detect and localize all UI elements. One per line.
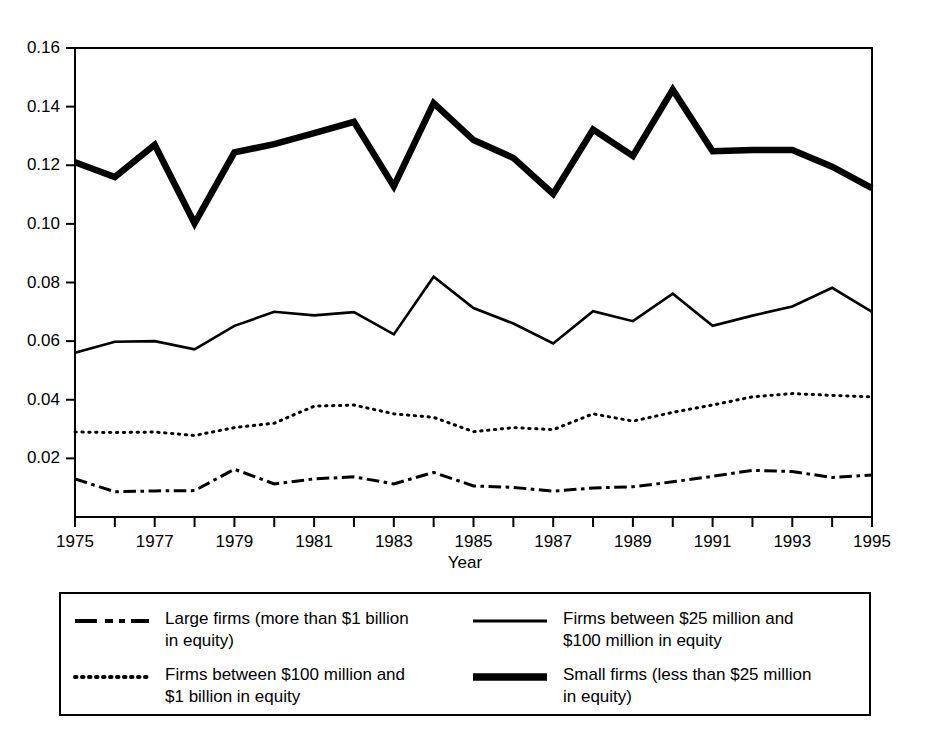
legend-column-right: Firms between $25 million and $100 milli… [471, 608, 867, 720]
plot-area: Probability of trading against insiders … [0, 0, 952, 580]
x-tick-label: 1987 [518, 533, 588, 550]
data-series-line-1 [75, 394, 872, 436]
y-tick-label: 0.02 [0, 449, 60, 466]
dotted-line-sample [73, 667, 151, 687]
legend-label: Small firms (less than $25 million in eq… [563, 664, 811, 708]
x-tick-label: 1983 [359, 533, 429, 550]
legend-label: Firms between $100 million and $1 billio… [165, 664, 405, 708]
data-series-line-2 [75, 277, 872, 353]
y-tick-label: 0.10 [0, 215, 60, 232]
x-tick-label: 1991 [678, 533, 748, 550]
legend-label: Large firms (more than $1 billion in equ… [165, 608, 409, 652]
x-tick-label: 1977 [120, 533, 190, 550]
x-tick-label: 1989 [598, 533, 668, 550]
x-axis-label: Year [56, 553, 874, 573]
y-tick-label: 0.16 [0, 39, 60, 56]
data-series-line-0 [75, 469, 872, 492]
legend-item-mid-small-firms: Firms between $25 million and $100 milli… [471, 608, 867, 654]
x-tick-label: 1981 [279, 533, 349, 550]
data-series-line-3 [75, 90, 872, 224]
x-tick-label: 1979 [199, 533, 269, 550]
chart-legend: Large firms (more than $1 billion in equ… [59, 592, 871, 716]
y-tick-label: 0.12 [0, 156, 60, 173]
plot-frame [75, 48, 872, 517]
y-tick-label: 0.04 [0, 391, 60, 408]
x-tick-label: 1993 [757, 533, 827, 550]
x-tick-label: 1975 [40, 533, 110, 550]
x-tick-label: 1995 [837, 533, 907, 550]
legend-item-large-firms: Large firms (more than $1 billion in equ… [73, 608, 469, 654]
legend-item-small-firms: Small firms (less than $25 million in eq… [471, 664, 867, 710]
legend-column-left: Large firms (more than $1 billion in equ… [73, 608, 469, 720]
y-tick-label: 0.14 [0, 98, 60, 115]
thick-line-sample [471, 667, 549, 687]
chart-canvas [0, 0, 952, 580]
y-tick-label: 0.08 [0, 274, 60, 291]
solid-line-sample [471, 611, 549, 631]
legend-item-mid-large-firms: Firms between $100 million and $1 billio… [73, 664, 469, 710]
y-tick-label: 0.06 [0, 332, 60, 349]
chart-figure: Probability of trading against insiders … [0, 0, 952, 746]
dashdot-line-sample [73, 611, 151, 631]
x-tick-label: 1985 [439, 533, 509, 550]
legend-label: Firms between $25 million and $100 milli… [563, 608, 794, 652]
